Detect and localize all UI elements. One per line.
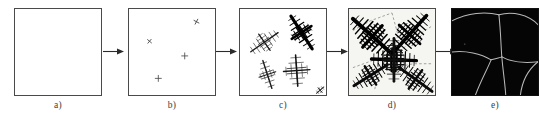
panel-c-artwork <box>240 9 326 95</box>
dendrite <box>315 85 326 95</box>
panel-a-label: a) <box>14 100 102 111</box>
speck <box>464 43 466 45</box>
dendrite <box>282 54 311 87</box>
arrow-a-b <box>103 47 124 56</box>
panel-d-artwork <box>349 9 435 95</box>
panel-d <box>348 8 436 96</box>
arrow-right-icon <box>327 47 348 56</box>
panel-b-artwork <box>129 9 215 95</box>
nucleus-mark <box>181 52 188 59</box>
panel-e <box>451 8 539 96</box>
panel-c-label: c) <box>239 100 327 111</box>
nucleus-mark <box>155 75 162 82</box>
panel-d-frame <box>348 8 436 96</box>
arrow-b-c <box>216 47 237 56</box>
nucleus-mark <box>145 37 153 45</box>
nucleus-mark <box>192 17 201 26</box>
arrow-c-d <box>327 47 348 56</box>
arrow-right-icon <box>103 47 124 56</box>
panel-b-label: b) <box>128 100 216 111</box>
dendrite <box>281 10 322 56</box>
panel-a-artwork <box>15 9 101 95</box>
panel-c <box>239 8 327 96</box>
panel-e-frame <box>451 8 539 96</box>
panel-a <box>14 8 102 96</box>
panel-b <box>128 8 216 96</box>
panel-d-label: d) <box>348 100 436 111</box>
panel-e-artwork <box>452 9 538 95</box>
panel-c-frame <box>239 8 327 96</box>
dendrite <box>254 58 280 91</box>
solidification-figure: a) b) c) d) <box>0 0 539 121</box>
panel-a-frame <box>14 8 102 96</box>
panel-e-label: e) <box>451 100 539 111</box>
panel-b-frame <box>128 8 216 96</box>
arrow-right-icon <box>216 47 237 56</box>
dendrite <box>245 25 284 60</box>
